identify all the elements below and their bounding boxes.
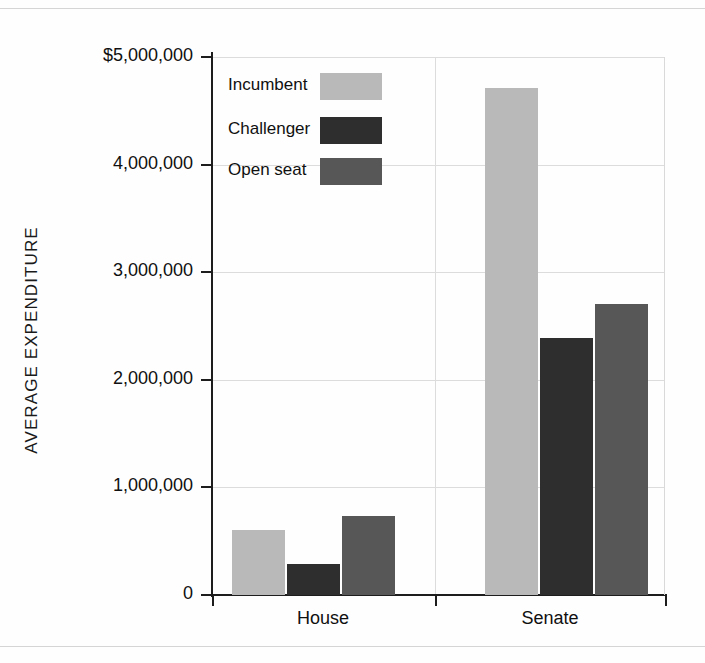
bar-house-challenger	[287, 564, 340, 595]
legend-label: Incumbent	[228, 75, 307, 95]
x-axis-tick	[665, 595, 667, 606]
x-axis-tick	[435, 595, 437, 606]
legend-label: Challenger	[228, 119, 310, 139]
x-axis-tick	[212, 595, 214, 606]
legend-swatch	[320, 158, 382, 185]
bar-house-open-seat	[342, 516, 395, 595]
legend-item-open-seat: Open seat	[228, 158, 388, 186]
bar-senate-challenger	[540, 338, 593, 595]
legend-swatch	[320, 73, 382, 100]
legend-item-incumbent: Incumbent	[228, 73, 388, 101]
legend-swatch	[320, 117, 382, 144]
legend-item-challenger: Challenger	[228, 117, 388, 145]
legend-label: Open seat	[228, 160, 306, 180]
bar-senate-incumbent	[485, 88, 538, 595]
x-axis-category-label-senate: Senate	[450, 608, 650, 629]
x-axis-category-label-house: House	[223, 608, 423, 629]
bar-house-incumbent	[232, 530, 285, 595]
bar-senate-open-seat	[595, 304, 648, 595]
bar-chart-figure: AVERAGE EXPENDITURE $5,000,0004,000,0003…	[0, 0, 705, 663]
